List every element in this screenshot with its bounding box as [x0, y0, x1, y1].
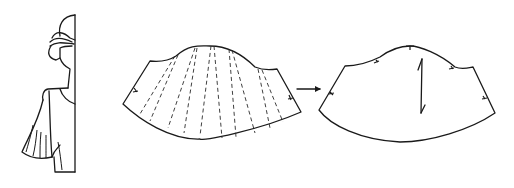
grainline-icon: [418, 59, 425, 113]
arrow-icon: [297, 86, 321, 92]
figure-illustration: [22, 15, 75, 172]
final-sleeve-pattern: [319, 46, 495, 142]
slashed-sleeve-pattern: [123, 46, 301, 140]
pattern-diagram: [0, 0, 514, 188]
